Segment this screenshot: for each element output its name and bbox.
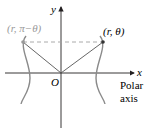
x-axis-label: x <box>137 67 142 78</box>
point-right <box>101 40 105 44</box>
y-axis-label: y <box>51 4 56 15</box>
polar-axis-label-line1: Polar <box>120 80 143 91</box>
point-left <box>21 40 25 44</box>
origin-label: O <box>51 77 59 88</box>
point-left-label: (r, π−θ) <box>7 23 41 34</box>
polar-axis-label-line2: axis <box>120 93 138 104</box>
polar-symmetry-diagram: y x O (r, θ) (r, π−θ) Polar axis <box>0 0 165 139</box>
point-right-label: (r, θ) <box>103 26 124 37</box>
